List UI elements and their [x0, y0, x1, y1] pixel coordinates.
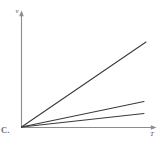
figure-label: C.: [1, 125, 9, 135]
data-line-shallow: [22, 114, 145, 128]
line-chart: v T C.: [0, 0, 164, 146]
y-axis-arrow-icon: [19, 11, 24, 17]
figure-container: v T C.: [0, 0, 164, 146]
y-axis-label: v: [16, 7, 20, 15]
x-axis-label: T: [150, 130, 155, 138]
